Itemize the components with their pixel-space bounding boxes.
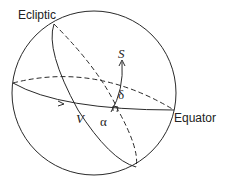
equator-direction-arrow-icon: [58, 101, 64, 106]
equator-label: Equator: [174, 111, 216, 125]
celestial-sphere-diagram: Ecliptic Equator S V α δ: [0, 0, 225, 190]
sphere-svg: Ecliptic Equator S V α δ: [0, 0, 225, 190]
declination-label: δ: [118, 87, 124, 102]
ecliptic-label: Ecliptic: [18, 8, 56, 22]
star-label: S: [118, 46, 125, 61]
right-ascension-label: α: [100, 114, 107, 129]
vernal-equinox-label: V: [76, 111, 86, 126]
